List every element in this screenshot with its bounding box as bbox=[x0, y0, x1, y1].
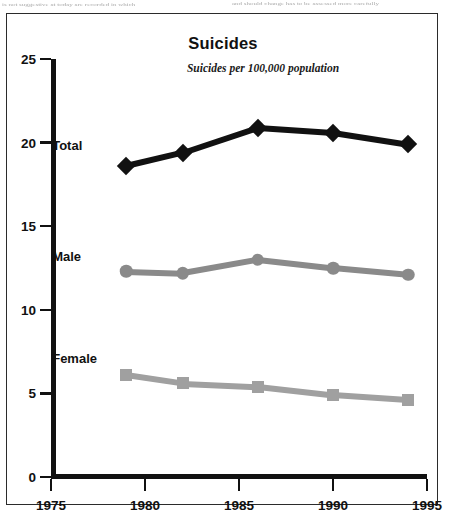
series-label-female: Female bbox=[52, 351, 97, 366]
plot-area: 0510152025 19751980198519901995 TotalMal… bbox=[51, 59, 429, 479]
series-line-segment bbox=[257, 384, 333, 398]
x-axis-tick bbox=[50, 479, 53, 491]
data-point-marker bbox=[173, 143, 191, 161]
y-axis-tick-label: 20 bbox=[21, 135, 36, 150]
data-point-marker bbox=[327, 262, 340, 275]
series-line-segment bbox=[333, 265, 409, 277]
data-point-marker bbox=[327, 389, 339, 401]
y-axis-tick bbox=[40, 225, 51, 228]
data-point-marker bbox=[402, 268, 415, 281]
scanned-page-text: is not suggestive at today are recorded … bbox=[0, 0, 453, 11]
y-axis-tick-label: 25 bbox=[21, 52, 36, 67]
y-axis-line bbox=[51, 59, 56, 477]
data-point-marker bbox=[249, 118, 267, 136]
series-line-segment bbox=[333, 130, 409, 148]
series-line-segment bbox=[126, 269, 183, 276]
x-axis-tick bbox=[426, 479, 429, 491]
x-axis-tick-label: 1985 bbox=[224, 498, 254, 513]
y-axis-tick bbox=[40, 309, 51, 312]
scanned-text-right: and should change has to be assessed mor… bbox=[232, 2, 379, 6]
y-axis-tick bbox=[40, 476, 51, 479]
y-axis-tick bbox=[40, 141, 51, 144]
x-axis-tick bbox=[332, 479, 335, 491]
x-axis-tick bbox=[144, 479, 147, 491]
x-axis-tick-label: 1980 bbox=[130, 498, 160, 513]
scanned-text-left: is not suggestive at today are recorded … bbox=[2, 3, 135, 7]
data-point-marker bbox=[252, 381, 264, 393]
series-line-segment bbox=[333, 392, 409, 403]
chart-figure-frame: Suicides Suicides per 100,000 population… bbox=[6, 13, 438, 505]
series-line-segment bbox=[182, 257, 258, 276]
data-point-marker bbox=[120, 265, 133, 278]
data-point-marker bbox=[177, 377, 189, 389]
y-axis-tick-label: 0 bbox=[28, 470, 36, 485]
series-label-male: Male bbox=[52, 249, 81, 264]
series-line-segment bbox=[257, 257, 333, 271]
data-point-marker bbox=[120, 369, 132, 381]
y-axis-tick bbox=[40, 58, 51, 61]
series-line-segment bbox=[258, 125, 334, 136]
series-line-segment bbox=[126, 372, 183, 386]
series-label-total: Total bbox=[52, 138, 82, 153]
y-axis-tick-label: 15 bbox=[21, 219, 36, 234]
data-point-marker bbox=[252, 253, 265, 266]
x-axis-tick-label: 1990 bbox=[318, 498, 348, 513]
data-point-marker bbox=[117, 157, 135, 175]
data-point-marker bbox=[402, 394, 414, 406]
x-axis-tick-label: 1975 bbox=[36, 498, 66, 513]
data-point-marker bbox=[176, 267, 189, 280]
series-line-segment bbox=[182, 125, 259, 156]
series-line-segment bbox=[182, 381, 257, 390]
data-point-marker bbox=[399, 135, 417, 153]
y-axis-tick-label: 5 bbox=[28, 386, 36, 401]
x-axis-tick bbox=[238, 479, 241, 491]
y-axis-tick-label: 10 bbox=[21, 302, 36, 317]
data-point-marker bbox=[324, 123, 342, 141]
y-axis-tick bbox=[40, 392, 51, 395]
x-axis-tick-label: 1995 bbox=[412, 498, 442, 513]
chart-title: Suicides bbox=[7, 34, 439, 53]
